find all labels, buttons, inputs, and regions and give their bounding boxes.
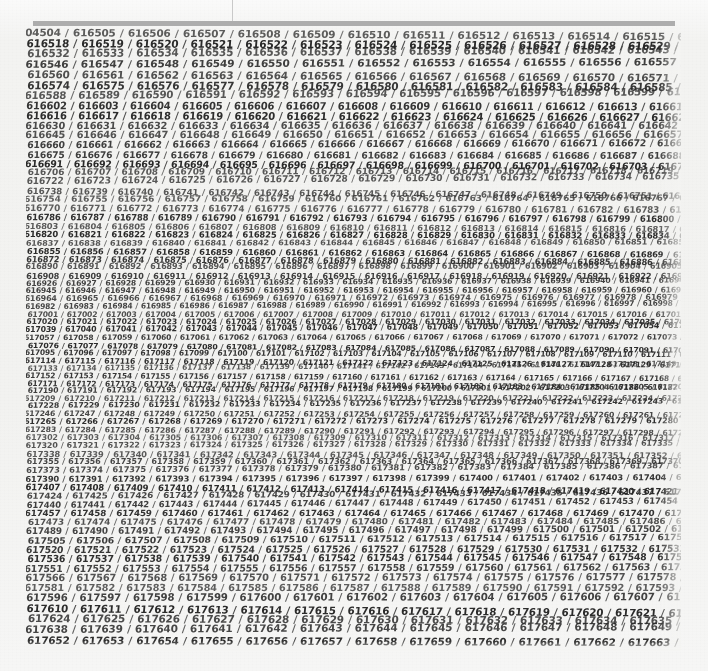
number-separator: /	[563, 359, 567, 368]
number-separator: /	[326, 349, 330, 358]
number-separator: /	[391, 194, 396, 203]
number-separator: /	[225, 417, 229, 426]
number-separator: /	[297, 194, 302, 203]
top-horizontal-rule	[33, 21, 675, 26]
number-separator: /	[278, 464, 283, 474]
number-separator: /	[545, 398, 549, 407]
number-separator: /	[291, 622, 297, 634]
number-separator: /	[365, 349, 369, 358]
number-separator: /	[236, 45, 242, 58]
number-separator: /	[503, 138, 509, 149]
number-separator: /	[372, 497, 377, 507]
number-separator: /	[446, 333, 450, 342]
number-separator: /	[279, 473, 283, 483]
number-separator: /	[71, 623, 77, 635]
artwork-page: 504504 / 616505 / 616506 / 616507 / 6165…	[0, 0, 708, 671]
number-separator: /	[673, 43, 679, 56]
number-separator: /	[537, 100, 543, 112]
number-separator: /	[634, 439, 638, 448]
number-separator: /	[596, 350, 600, 359]
number-separator: /	[290, 333, 294, 342]
number-separator: /	[424, 399, 428, 408]
number-separator: /	[572, 383, 577, 392]
number-separator: /	[263, 400, 267, 409]
number-separator: /	[604, 86, 610, 98]
number-separator: /	[336, 277, 340, 286]
number-separator: /	[675, 620, 681, 632]
number-separator: /	[511, 439, 515, 448]
number-separator: /	[649, 137, 655, 148]
number-separator: /	[509, 635, 515, 647]
number-separator: /	[176, 88, 182, 100]
number-separator: /	[625, 398, 629, 407]
number-separator: /	[145, 238, 150, 247]
number-separator: /	[621, 321, 625, 331]
number-separator: /	[573, 276, 577, 285]
number-separator: /	[493, 383, 498, 392]
number-separator: /	[511, 621, 517, 633]
number-separator: /	[176, 362, 180, 371]
number-separator: /	[498, 591, 504, 602]
number-separator: /	[485, 100, 491, 112]
number-separator: /	[563, 333, 567, 342]
number-separator: /	[445, 173, 450, 183]
number-separator: /	[464, 399, 468, 408]
number-separator: /	[457, 213, 462, 224]
number-separator: /	[545, 213, 550, 224]
number-separator: /	[182, 57, 188, 68]
number-separator: /	[460, 322, 464, 332]
number-separator: /	[416, 497, 421, 507]
number-separator: /	[494, 276, 498, 285]
number-separator: /	[578, 194, 583, 203]
number-separator: /	[623, 461, 628, 471]
number-separator: /	[182, 634, 188, 646]
ink-layer: 504504 / 616505 / 616506 / 616507 / 6165…	[26, 27, 681, 651]
number-separator: /	[235, 473, 239, 483]
number-separator: /	[624, 55, 630, 66]
number-separator: /	[651, 383, 656, 392]
number-separator: /	[300, 323, 304, 333]
number-separator: /	[349, 417, 353, 426]
number-separator: /	[636, 299, 640, 308]
number-separator: /	[173, 333, 177, 342]
number-separator: /	[266, 417, 270, 426]
number-separator: /	[666, 461, 671, 471]
number-separator: /	[409, 473, 413, 483]
number-separator: /	[340, 323, 344, 333]
number-separator: /	[179, 324, 183, 334]
number-separator: /	[297, 385, 302, 394]
number-separator: /	[223, 400, 227, 409]
number-separator: /	[497, 86, 503, 98]
number-separator: /	[589, 214, 594, 225]
number-separator: /	[480, 350, 484, 359]
number-separator: /	[593, 439, 597, 448]
number-row: 616588 / 616589 / 616590 / 616591 / 6165…	[26, 86, 681, 101]
number-separator: /	[432, 417, 436, 426]
number-separator: /	[633, 214, 638, 225]
number-separator: /	[601, 532, 606, 542]
number-separator: /	[680, 495, 681, 505]
number-separator: /	[196, 498, 201, 508]
number-separator: /	[569, 56, 575, 67]
number-separator: /	[429, 439, 433, 448]
number-separator: /	[142, 441, 146, 450]
number-separator: /	[350, 174, 355, 184]
number-separator: /	[391, 591, 397, 602]
bottom-margin	[0, 651, 708, 671]
number-separator: /	[476, 262, 481, 271]
number-separator: /	[230, 88, 236, 100]
number-separator: /	[359, 533, 364, 543]
number-separator: /	[400, 44, 406, 57]
number-separator: /	[231, 591, 237, 602]
number-separator: /	[679, 571, 681, 582]
number-separator: /	[587, 172, 592, 182]
number-separator: /	[259, 323, 263, 333]
number-separator: /	[658, 591, 664, 602]
number-separator: /	[337, 591, 343, 602]
number-separator: /	[375, 384, 380, 393]
number-row: 617638 / 617639 / 617640 / 617641 / 6176…	[26, 621, 681, 635]
number-separator: /	[398, 173, 403, 183]
number-separator: /	[381, 100, 387, 112]
number-separator: /	[380, 323, 384, 333]
number-separator: /	[501, 213, 506, 224]
